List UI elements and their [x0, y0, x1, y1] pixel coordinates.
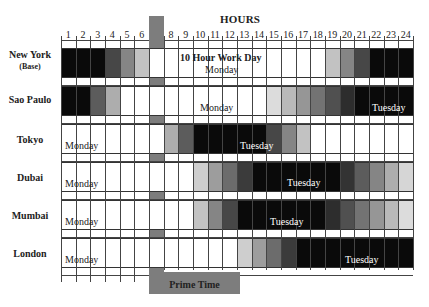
grid-line: [281, 36, 282, 270]
hour-tick-label: 22: [369, 29, 384, 40]
day-label: Tuesday: [240, 140, 274, 151]
hour-tick-label: 10: [193, 29, 208, 40]
hour-tick-label: 14: [252, 29, 267, 40]
grid-line: [76, 36, 77, 282]
grid-line: [296, 36, 297, 270]
day-label: Tuesday: [372, 102, 406, 113]
hour-tick-label: 1: [61, 29, 76, 40]
hour-tick-label: 20: [340, 29, 355, 40]
hour-tick-label: 18: [310, 29, 325, 40]
grid-line: [90, 36, 91, 282]
day-label: Monday: [65, 216, 98, 227]
city-label-dubai: Dubai: [2, 172, 58, 184]
hour-tick-label: 24: [398, 29, 413, 40]
hour-tick-label: 9: [178, 29, 193, 40]
grid-line: [340, 36, 341, 270]
grid-line: [266, 36, 267, 270]
day-label: Monday: [65, 140, 98, 151]
grid-line: [134, 36, 135, 282]
hour-tick-label: 8: [164, 29, 179, 40]
hour-tick-label: 19: [325, 29, 340, 40]
hour-tick-label: 11: [208, 29, 223, 40]
city-label-tokyo: Tokyo: [2, 134, 58, 146]
grid-line: [164, 36, 165, 270]
hour-tick-label: 12: [222, 29, 237, 40]
city-name: New York: [9, 49, 51, 60]
grid-line: [105, 36, 106, 282]
day-label: Monday: [65, 254, 98, 265]
chart-title: HOURS: [220, 13, 260, 25]
hour-tick-label: 17: [296, 29, 311, 40]
grid-line: [252, 36, 253, 270]
grid-line: [120, 36, 121, 282]
hour-tick-label: 5: [120, 29, 135, 40]
grid-line: [149, 36, 150, 282]
city-label-mumbai: Mumbai: [2, 210, 58, 222]
hour-tick-label: 3: [90, 29, 105, 40]
hour-tick-label: 21: [354, 29, 369, 40]
hour-tick-label: 15: [266, 29, 281, 40]
grid-line: [310, 36, 311, 270]
grid-line: [354, 36, 355, 270]
city-sub: (Base): [2, 61, 58, 73]
prime-time-column-top: [149, 16, 164, 48]
grid-line: [384, 36, 385, 270]
day-label: Tuesday: [270, 216, 304, 227]
grid-line: [178, 36, 179, 270]
city-label-sao-paulo: Sao Paulo: [2, 94, 58, 106]
grid-line: [325, 36, 326, 270]
hour-tick-label: 6: [134, 29, 149, 40]
day-label: Tuesday: [345, 254, 379, 265]
city-label-london: London: [2, 248, 58, 260]
day-label: Tuesday: [287, 177, 321, 188]
day-label: Monday: [65, 178, 98, 189]
grid-line: [369, 36, 370, 270]
hour-tick-label: 13: [237, 29, 252, 40]
prime-time-label: Prime Time: [149, 272, 240, 294]
grid-line: [398, 36, 399, 270]
day-label: Monday: [205, 64, 238, 75]
day-label: Monday: [200, 102, 233, 113]
grid-line: [61, 36, 62, 282]
city-label-new-york: New York (Base): [2, 49, 58, 73]
hour-tick-label: 23: [384, 29, 399, 40]
hour-tick-label: 16: [281, 29, 296, 40]
hour-tick-label: 2: [76, 29, 91, 40]
grid-line: [193, 36, 194, 270]
work-day-annotation: 10 Hour Work Day: [180, 52, 262, 63]
hour-tick-label: 4: [105, 29, 120, 40]
grid-line: [413, 36, 414, 270]
